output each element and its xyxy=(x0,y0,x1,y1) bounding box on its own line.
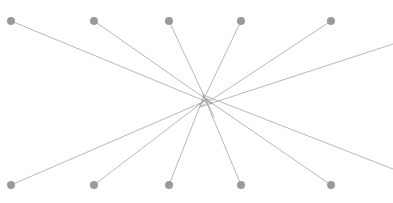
graph-node[interactable] xyxy=(90,181,98,189)
node-layer xyxy=(7,17,335,189)
graph-node[interactable] xyxy=(90,17,98,25)
graph-node[interactable] xyxy=(237,17,245,25)
graph-node[interactable] xyxy=(327,17,335,25)
graph-edge xyxy=(203,97,331,185)
graph-edge xyxy=(203,95,393,169)
edge-layer xyxy=(11,21,393,185)
graph-svg xyxy=(0,0,393,203)
graph-edge xyxy=(202,21,331,106)
graph-node[interactable] xyxy=(237,181,245,189)
graph-canvas xyxy=(0,0,393,203)
graph-node[interactable] xyxy=(165,17,173,25)
graph-node[interactable] xyxy=(7,181,15,189)
graph-node[interactable] xyxy=(165,181,173,189)
graph-node[interactable] xyxy=(7,17,15,25)
graph-node[interactable] xyxy=(327,181,335,189)
graph-edge xyxy=(200,44,393,107)
